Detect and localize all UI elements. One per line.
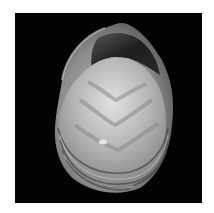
shell-photo <box>0 0 214 213</box>
